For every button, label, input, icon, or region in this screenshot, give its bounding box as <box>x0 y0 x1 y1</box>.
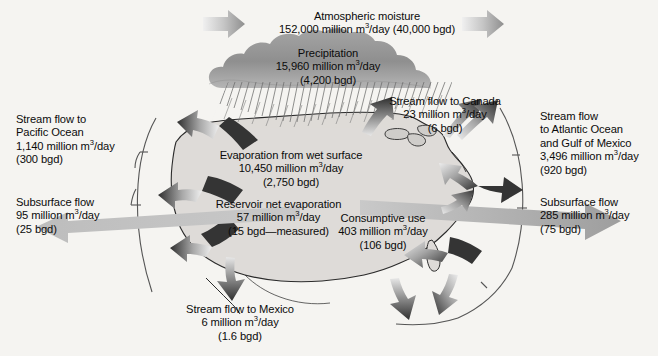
stream-flow-atlantic-line1: Stream flow <box>540 110 658 123</box>
label-consumptive-use: Consumptive use 403 million m3/day (106 … <box>318 212 448 252</box>
stream-flow-pacific-line2: Pacific Ocean <box>16 126 146 139</box>
stream-flow-mexico-line3: (1.6 bgd) <box>164 330 316 343</box>
label-subsurface-flow-west: Subsurface flow 95 million m3/day (25 bg… <box>16 196 146 236</box>
consumptive-use-line3: (106 bgd) <box>318 239 448 252</box>
label-precipitation: Precipitation 15,960 million m3/day (4,2… <box>243 47 413 87</box>
consumptive-use-line2: 403 million m3/day <box>318 225 448 238</box>
stream-flow-pacific-line1: Stream flow to <box>16 113 146 126</box>
precipitation-line2: 15,960 million m3/day <box>243 60 413 73</box>
stream-flow-canada-line2: 23 million m3/day <box>372 108 518 121</box>
water-budget-diagram: Atmospheric moisture 152,000 million m3/… <box>0 0 658 356</box>
atmospheric-moisture-line2: 152,000 million m3/day (40,000 bgd) <box>252 23 482 36</box>
label-evaporation-wet-surface: Evaporation from wet surface 10,450 mill… <box>196 149 386 189</box>
subsurface-flow-west-line3: (25 bgd) <box>16 223 146 236</box>
subsurface-flow-east-line1: Subsurface flow <box>540 196 658 209</box>
evaporation-line3: (2,750 bgd) <box>196 176 386 189</box>
label-stream-flow-canada: Stream flow to Canada 23 million m3/day … <box>372 95 518 135</box>
subsurface-flow-west-line1: Subsurface flow <box>16 196 146 209</box>
label-subsurface-flow-east: Subsurface flow 285 million m3/day (75 b… <box>540 196 658 236</box>
stream-flow-mexico-line1: Stream flow to Mexico <box>164 303 316 316</box>
evaporation-line1: Evaporation from wet surface <box>196 149 386 162</box>
precipitation-line1: Precipitation <box>243 47 413 60</box>
label-stream-flow-atlantic: Stream flow to Atlantic Ocean and Gulf o… <box>540 110 658 177</box>
stream-flow-atlantic-line5: (920 bgd) <box>540 164 658 177</box>
stream-flow-atlantic-line3: and Gulf of Mexico <box>540 137 658 150</box>
reservoir-line1: Reservoir net evaporation <box>186 198 371 211</box>
consumptive-use-line1: Consumptive use <box>318 212 448 225</box>
stream-flow-atlantic-line2: to Atlantic Ocean <box>540 123 658 136</box>
label-atmospheric-moisture: Atmospheric moisture 152,000 million m3/… <box>252 10 482 37</box>
subsurface-flow-east-line3: (75 bgd) <box>540 223 658 236</box>
label-stream-flow-pacific: Stream flow to Pacific Ocean 1,140 milli… <box>16 113 146 167</box>
stream-flow-atlantic-line4: 3,496 million m3/day <box>540 150 658 163</box>
stream-flow-canada-line3: (6 bgd) <box>372 122 518 135</box>
stream-flow-mexico-line2: 6 million m3/day <box>164 316 316 329</box>
precipitation-line3: (4,200 bgd) <box>243 74 413 87</box>
subsurface-flow-east-line2: 285 million m3/day <box>540 209 658 222</box>
evaporation-line2: 10,450 million m3/day <box>196 162 386 175</box>
subsurface-flow-west-line2: 95 million m3/day <box>16 209 146 222</box>
stream-flow-pacific-line4: (300 bgd) <box>16 153 146 166</box>
stream-flow-pacific-line3: 1,140 million m3/day <box>16 140 146 153</box>
label-stream-flow-mexico: Stream flow to Mexico 6 million m3/day (… <box>164 303 316 343</box>
stream-flow-canada-line1: Stream flow to Canada <box>372 95 518 108</box>
